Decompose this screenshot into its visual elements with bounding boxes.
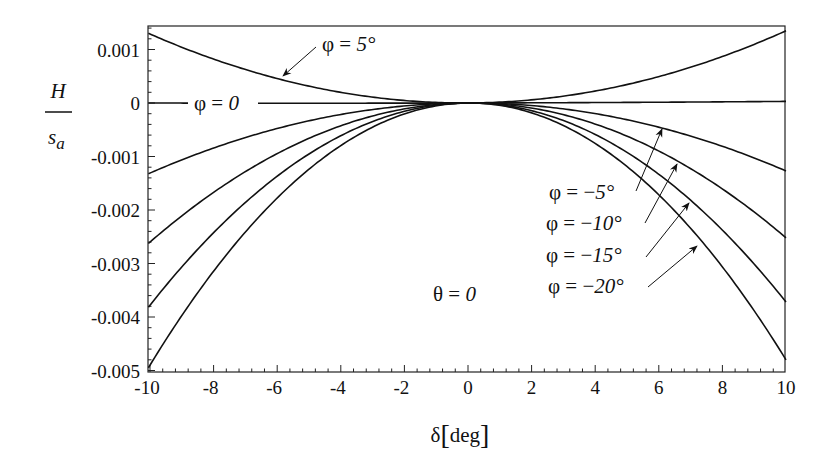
annotation-phi-minus-15: φ = −15° xyxy=(546,243,622,267)
annotation-phi-0: φ = 0 xyxy=(194,91,239,115)
x-tick-label: -4 xyxy=(330,377,346,398)
y-axis-label-denominator: sa xyxy=(48,125,65,153)
series-curve xyxy=(148,103,786,243)
x-tick-label: 8 xyxy=(718,377,728,398)
x-tick-label: 4 xyxy=(590,377,600,398)
line-chart: 0.0010-0.001-0.002-0.003-0.004-0.005 -10… xyxy=(0,0,833,472)
y-tick-label: -0.001 xyxy=(91,147,140,168)
arrow-phi-minus-20 xyxy=(648,246,697,287)
x-tick-label: 0 xyxy=(463,377,473,398)
x-axis-label: δ[deg] xyxy=(431,419,490,450)
y-tick-label: -0.004 xyxy=(91,307,141,328)
y-tick-label: 0.001 xyxy=(97,40,140,61)
y-tick-label: 0 xyxy=(131,93,141,114)
series-curve xyxy=(148,103,786,307)
arrow-phi-5 xyxy=(283,47,316,76)
y-axis-label-numerator: H xyxy=(49,79,67,103)
arrow-phi-minus-15 xyxy=(646,203,689,257)
series-curve xyxy=(148,103,786,368)
annotation-theta-0: θ = 0 xyxy=(433,282,476,306)
x-tick-label: 2 xyxy=(527,377,537,398)
annotation-phi-minus-5: φ = −5° xyxy=(549,180,615,204)
annotation-phi-minus-10: φ = −10° xyxy=(546,211,622,235)
arrow-phi-minus-10 xyxy=(645,164,677,223)
y-axis-tick-labels: 0.0010-0.001-0.002-0.003-0.004-0.005 xyxy=(91,40,141,382)
annotation-phi-5: φ = 5° xyxy=(322,32,376,56)
x-tick-label: 10 xyxy=(777,377,796,398)
data-curves xyxy=(148,31,786,368)
y-tick-label: -0.002 xyxy=(91,200,140,221)
axis-ticks xyxy=(148,28,773,372)
y-tick-label: -0.003 xyxy=(91,254,140,275)
x-axis-tick-labels: -10-8-6-4-20246810 xyxy=(134,377,795,398)
x-tick-label: -10 xyxy=(134,377,159,398)
annotation-phi-minus-20: φ = −20° xyxy=(548,274,624,298)
y-tick-label: -0.005 xyxy=(91,361,140,382)
x-tick-label: -8 xyxy=(203,377,219,398)
x-tick-label: -6 xyxy=(266,377,282,398)
x-tick-label: 6 xyxy=(654,377,664,398)
x-tick-label: -2 xyxy=(393,377,409,398)
